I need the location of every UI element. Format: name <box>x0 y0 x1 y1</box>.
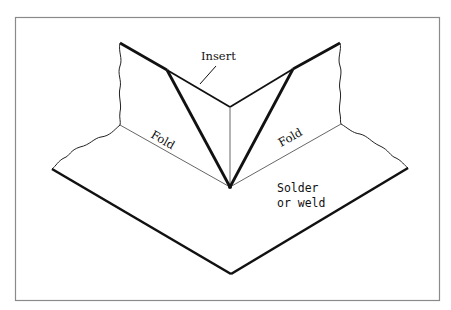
weld-vertex <box>228 185 232 189</box>
right-wall-break-edge <box>339 43 341 124</box>
right-wall-top-edge <box>293 43 340 69</box>
right-floor-break-edge <box>341 124 408 168</box>
floor-right-front-edge <box>231 168 408 274</box>
solder-label-line1: Solder <box>277 181 319 195</box>
insert-leader-line <box>200 66 216 84</box>
floor-left-front-edge <box>52 169 231 274</box>
insert-label: Insert <box>201 49 236 63</box>
left-fold-label: Fold <box>149 127 178 152</box>
right-fold-label: Fold <box>276 125 305 150</box>
solder-label-line2: or weld <box>277 196 325 210</box>
corner-joint-diagram: Insert Fold Fold Solder or weld <box>0 0 451 310</box>
left-floor-break-edge <box>52 125 120 169</box>
left-wall-top-edge <box>120 43 167 70</box>
left-wall-break-edge <box>119 43 121 125</box>
